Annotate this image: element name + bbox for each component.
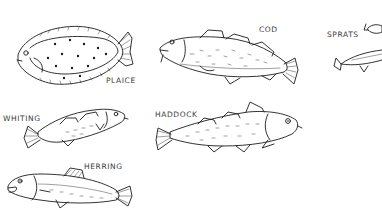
plaice-label: PLAICE — [106, 76, 136, 85]
herring-label: HERRING — [84, 162, 123, 171]
cod-label: COD — [259, 25, 278, 34]
fish-drawings — [0, 0, 382, 210]
haddock-label: HADDOCK — [155, 110, 198, 119]
cod-drawing — [160, 30, 298, 84]
herring-drawing — [8, 168, 132, 208]
sprats-label: SPRATS — [327, 30, 359, 39]
fish-illustration: PLAICE COD SPRATS WHITING HADDOCK HERRIN… — [0, 0, 382, 210]
whiting-label: WHITING — [3, 114, 41, 123]
